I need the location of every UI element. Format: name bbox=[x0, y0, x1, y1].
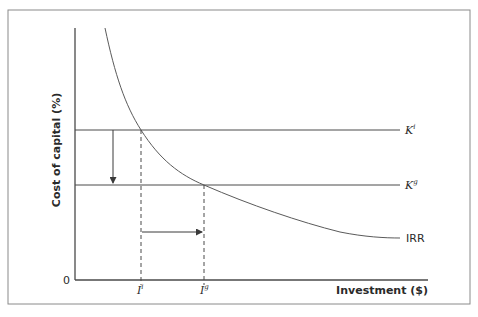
i-i-label: Ii bbox=[136, 283, 144, 297]
irr-label: IRR bbox=[406, 232, 425, 245]
figure-frame bbox=[8, 10, 470, 304]
origin-label: 0 bbox=[63, 274, 70, 287]
y-axis-title: Cost of capital (%) bbox=[50, 93, 63, 207]
k-i-label: Ki bbox=[404, 123, 415, 137]
irr-curve bbox=[105, 28, 400, 238]
k-g-label: Kg bbox=[404, 178, 418, 192]
i-g-label: Ig bbox=[199, 283, 209, 297]
chart-canvas: Ki Kg IRR Ii Ig 0 Investment ($) Cost of… bbox=[0, 0, 478, 317]
x-axis-title: Investment ($) bbox=[336, 284, 428, 297]
